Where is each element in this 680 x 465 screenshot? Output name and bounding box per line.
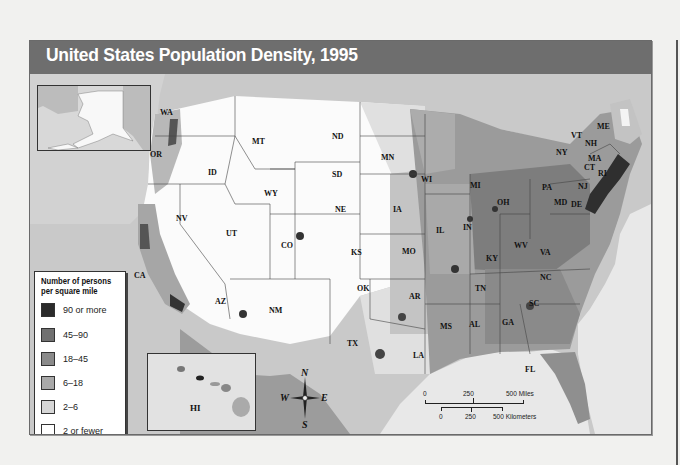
state-label-pa: PA xyxy=(542,183,552,192)
scale-miles-250: 250 xyxy=(463,390,474,397)
legend-swatch-2-6 xyxy=(41,400,55,414)
compass-s: S xyxy=(302,419,308,430)
map-title: United States Population Density, 1995 xyxy=(46,44,358,66)
state-label-fl: FL xyxy=(525,365,535,374)
legend-swatch-6-18 xyxy=(41,376,55,390)
state-label-va: VA xyxy=(540,248,551,257)
state-label-tx: TX xyxy=(347,339,358,348)
state-label-vt: VT xyxy=(571,131,582,140)
legend-title: Number of persons per square mile xyxy=(41,277,111,296)
state-label-ga: GA xyxy=(502,318,514,327)
state-label-co: CO xyxy=(281,241,293,250)
legend-item: 18–45 xyxy=(41,352,88,366)
map-legend: Number of persons per square mile 90 or … xyxy=(34,271,126,435)
legend-label: 45–90 xyxy=(63,330,88,340)
state-label-az: AZ xyxy=(215,297,226,306)
legend-item: 6–18 xyxy=(41,376,83,390)
state-label-mi: MI xyxy=(470,181,481,190)
state-label-mo: MO xyxy=(402,247,416,256)
legend-label: 6–18 xyxy=(63,378,83,388)
legend-swatch-90-or-more xyxy=(41,303,55,317)
scale-miles-bar xyxy=(425,400,524,404)
scale-miles-500: 500 Miles xyxy=(506,390,534,397)
legend-item: 45–90 xyxy=(41,328,88,342)
legend-title-line2: per square mile xyxy=(41,287,111,297)
state-label-ms: MS xyxy=(440,322,452,331)
compass-n: N xyxy=(301,367,308,378)
state-label-wy: WY xyxy=(264,189,278,198)
state-label-mn: MN xyxy=(381,153,394,162)
state-label-nm: NM xyxy=(269,306,282,315)
state-label-ut: UT xyxy=(226,229,237,238)
state-label-ar: AR xyxy=(409,292,421,301)
hawaii-map xyxy=(148,354,255,430)
state-label-hi: HI xyxy=(190,403,201,413)
state-label-al: AL xyxy=(469,320,480,329)
state-label-nc: NC xyxy=(540,273,552,282)
legend-swatch-18-45 xyxy=(41,352,55,366)
scale-bar: 0 250 500 Miles 0 250 500 Kilometers xyxy=(423,390,573,430)
legend-label: 2 or fewer xyxy=(63,426,103,435)
state-label-id: ID xyxy=(208,168,217,177)
state-label-il: IL xyxy=(436,226,444,235)
state-label-ky: KY xyxy=(486,254,498,263)
state-label-ri: RI xyxy=(598,169,607,178)
scale-tick xyxy=(473,398,474,403)
compass-rose: N W E S xyxy=(278,367,330,433)
state-label-sd: SD xyxy=(332,170,342,179)
compass-w: W xyxy=(280,392,289,403)
state-label-nj: NJ xyxy=(578,182,588,191)
state-label-wi: WI xyxy=(421,175,432,184)
state-label-ne: NE xyxy=(335,205,346,214)
legend-swatch-2-or-fewer xyxy=(41,424,55,435)
state-label-ia: IA xyxy=(393,205,402,214)
state-label-md: MD xyxy=(554,198,567,207)
state-label-ca: CA xyxy=(134,271,146,280)
state-label-ok: OK xyxy=(357,284,369,293)
alaska-inset xyxy=(37,85,151,151)
state-label-wa: WA xyxy=(160,108,173,117)
state-label-wv: WV xyxy=(514,241,528,250)
state-label-nd: ND xyxy=(332,132,344,141)
scale-km-500: 500 Kilometers xyxy=(493,413,536,420)
state-label-nv: NV xyxy=(176,214,188,223)
legend-item: 90 or more xyxy=(41,303,107,317)
legend-label: 18–45 xyxy=(63,354,88,364)
state-label-ny: NY xyxy=(556,148,568,157)
state-label-ks: KS xyxy=(351,248,362,257)
state-label-oh: OH xyxy=(497,198,509,207)
title-bar: United States Population Density, 1995 xyxy=(30,41,651,74)
legend-label: 2–6 xyxy=(63,402,78,412)
map-frame: United States Population Density, 1995 xyxy=(29,40,652,435)
state-label-de: DE xyxy=(571,200,582,209)
state-label-in: IN xyxy=(463,223,472,232)
scale-tick xyxy=(471,407,472,412)
scale-km-0: 0 xyxy=(439,413,443,420)
state-label-mt: MT xyxy=(252,137,265,146)
state-label-ct: CT xyxy=(584,163,595,172)
scale-km-bar xyxy=(441,407,503,411)
legend-label: 90 or more xyxy=(63,305,107,315)
scale-miles-0: 0 xyxy=(423,390,427,397)
legend-swatch-45-90 xyxy=(41,328,55,342)
state-label-tn: TN xyxy=(475,284,486,293)
map-area: HI Number of persons per square mile 90 … xyxy=(30,74,651,434)
hawaii-inset: HI xyxy=(147,353,256,431)
compass-e: E xyxy=(321,392,328,403)
legend-item: 2–6 xyxy=(41,400,78,414)
page-edge xyxy=(676,40,678,465)
alaska-map xyxy=(38,86,150,150)
state-label-ma: MA xyxy=(588,154,601,163)
state-label-nh: NH xyxy=(585,139,597,148)
state-label-la: LA xyxy=(413,351,424,360)
scale-km-250: 250 xyxy=(465,413,476,420)
legend-item: 2 or fewer xyxy=(41,424,103,435)
state-label-me: ME xyxy=(597,122,610,131)
state-label-sc: SC xyxy=(529,299,539,308)
state-label-or: OR xyxy=(150,150,162,159)
